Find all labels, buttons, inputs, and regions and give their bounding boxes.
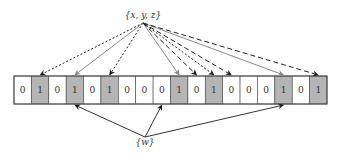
hash-arrow-x [143,23,214,75]
bit-cell: 0 [84,76,101,104]
hash-arrow-x [40,23,143,75]
query-arrow-w [145,105,284,137]
bit-cell: 1 [171,76,188,104]
bit-cell: 0 [14,76,31,104]
hash-arrow-z [143,23,231,75]
bit-value: 1 [281,85,287,95]
query-arrow-w [145,105,162,137]
hash-arrow-y [143,23,284,75]
bit-value: 1 [176,85,182,95]
bit-cell: 0 [257,76,274,104]
inserted-set-label: {x, y, z} [125,10,162,20]
bit-cell: 1 [205,76,222,104]
hash-arrow-x [110,23,143,75]
bit-value: 0 [246,85,252,95]
bit-value: 0 [159,85,165,95]
bit-value: 1 [37,85,43,95]
bit-cell: 1 [31,76,48,104]
bit-cell: 1 [66,76,83,104]
bit-cell: 0 [240,76,257,104]
bit-value: 0 [142,85,148,95]
bit-cell: 0 [136,76,153,104]
bit-value: 1 [211,85,217,95]
bit-cell: 0 [223,76,240,104]
bit-value: 0 [55,85,61,95]
bloom-filter-diagram: 010101000101000101 {x, y, z} {w} [0,0,341,156]
bit-cell: 0 [292,76,309,104]
bit-cell: 0 [153,76,170,104]
bit-value: 1 [72,85,78,95]
bit-value: 0 [298,85,304,95]
hash-arrow-y [143,23,179,75]
bit-value: 1 [315,85,321,95]
bit-value: 0 [194,85,200,95]
bit-value: 0 [89,85,95,95]
query-arrow-w [75,105,145,137]
bit-cell: 1 [101,76,118,104]
bit-value: 1 [107,85,113,95]
bit-cell: 1 [310,76,327,104]
bit-cell: 1 [275,76,292,104]
bit-cell: 0 [49,76,66,104]
bit-value: 0 [263,85,269,95]
bit-cell: 0 [118,76,135,104]
bit-array: 010101000101000101 [14,76,327,104]
bit-value: 0 [20,85,26,95]
query-element-label: {w} [135,137,154,147]
bit-value: 0 [228,85,234,95]
bit-cell: 0 [188,76,205,104]
bit-value: 0 [124,85,130,95]
hash-arrow-y [75,23,143,75]
